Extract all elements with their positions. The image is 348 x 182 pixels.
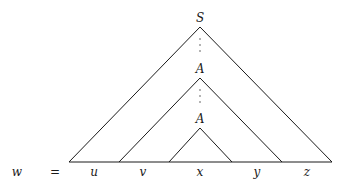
outer-left-edge <box>69 27 200 162</box>
root-node-label: S <box>196 11 204 25</box>
parse-tree-diagram: S A A w = u v x y z <box>0 0 348 182</box>
lower-A-node-label: A <box>195 112 205 126</box>
upper-A-node-label: A <box>195 62 205 76</box>
inner-left-edge <box>169 128 200 162</box>
inner-subtree-A <box>169 128 232 162</box>
inner-right-edge <box>200 128 232 162</box>
segment-x-label: x <box>197 165 204 179</box>
vertical-ellipsis-icon <box>199 89 201 103</box>
vertical-ellipsis-icon <box>199 38 201 52</box>
segment-u-label: u <box>90 165 98 179</box>
segment-y-label: y <box>253 165 261 179</box>
segment-v-label: v <box>140 165 147 179</box>
string-w-label: w <box>12 165 23 179</box>
segment-z-label: z <box>303 165 311 179</box>
middle-left-edge <box>119 78 200 162</box>
equals-sign: = <box>50 165 60 179</box>
outer-subtree-S <box>69 27 332 162</box>
middle-right-edge <box>200 78 282 162</box>
outer-right-edge <box>200 27 332 162</box>
